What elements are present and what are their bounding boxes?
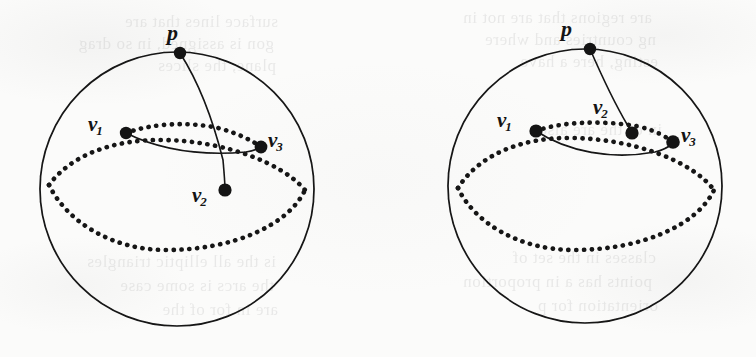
- figure-canvas: surface lines that aregon is assigned, i…: [0, 0, 756, 357]
- right-label-p: p: [561, 18, 572, 40]
- right-sphere-group: [448, 49, 722, 323]
- right-point-v1: [529, 124, 542, 137]
- left-point-v3: [255, 141, 268, 154]
- left-point-v2: [218, 183, 231, 196]
- left-lower-circle-front-dashed: [49, 185, 305, 250]
- left-label-v3: v3: [268, 130, 284, 151]
- left-point-p: [174, 47, 186, 59]
- left-sphere-outline: [40, 52, 314, 326]
- right-meridian-arc: [590, 49, 632, 133]
- right-sphere-outline: [448, 49, 722, 323]
- left-label-v2: v2: [192, 185, 208, 206]
- left-label-v1: v1: [88, 114, 104, 135]
- left-label-p: p: [167, 22, 178, 44]
- left-point-v1: [120, 127, 132, 139]
- right-point-v2: [625, 126, 638, 139]
- right-label-v3: v3: [681, 125, 697, 146]
- right-label-v1: v1: [497, 110, 513, 131]
- left-back-equator-dashed: [126, 124, 262, 147]
- left-sphere-group: [40, 52, 314, 326]
- sphere-diagram-svg: [0, 0, 756, 357]
- right-lower-circle-front-dashed: [458, 188, 714, 250]
- right-point-v3: [666, 135, 680, 149]
- right-point-p: [584, 43, 596, 55]
- right-label-v2: v2: [593, 97, 609, 118]
- left-meridian-arc: [180, 53, 225, 190]
